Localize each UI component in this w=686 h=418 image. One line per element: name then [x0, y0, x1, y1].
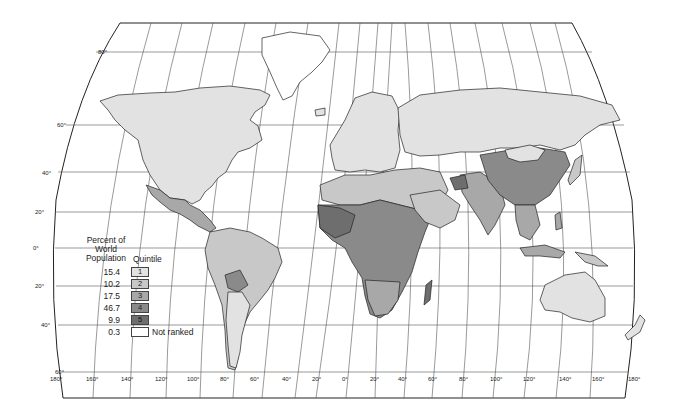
- svg-text:0°: 0°: [33, 245, 39, 251]
- legend-header-quintile: Quintile: [133, 254, 162, 264]
- legend-swatch-q1: 1: [131, 267, 149, 277]
- legend-percent: 0.3: [80, 327, 120, 337]
- svg-text:120°: 120°: [523, 376, 536, 382]
- legend-percent: 17.5: [80, 291, 120, 301]
- legend-row-1: 15.4 1: [80, 267, 230, 277]
- svg-text:160°: 160°: [86, 376, 99, 382]
- legend-header-line: Population: [80, 254, 132, 263]
- legend-swatch-q4: 4: [131, 303, 149, 313]
- svg-text:160°: 160°: [592, 376, 605, 382]
- legend-percent: 10.2: [80, 279, 120, 289]
- legend-row-3: 17.5 3: [80, 291, 230, 301]
- svg-text:80°: 80°: [98, 49, 108, 55]
- legend-swatch-not-ranked: [131, 327, 149, 337]
- svg-text:100°: 100°: [187, 376, 200, 382]
- svg-text:40°: 40°: [398, 376, 408, 382]
- legend-row-not-ranked: 0.3 Not ranked: [80, 327, 230, 337]
- svg-text:180°: 180°: [50, 376, 63, 382]
- svg-text:60°: 60°: [55, 369, 65, 375]
- legend-percent: 46.7: [80, 303, 120, 313]
- svg-text:120°: 120°: [155, 376, 168, 382]
- legend-swatch-q5: 5: [131, 315, 149, 325]
- svg-text:0°: 0°: [342, 376, 348, 382]
- legend-swatch-q3: 3: [131, 291, 149, 301]
- svg-text:180°: 180°: [628, 376, 641, 382]
- legend-row-4: 46.7 4: [80, 303, 230, 313]
- svg-text:20°: 20°: [35, 209, 45, 215]
- legend-swatch-q2: 2: [131, 279, 149, 289]
- legend-percent: 9.9: [80, 315, 120, 325]
- svg-text:20°: 20°: [35, 283, 45, 289]
- svg-text:40°: 40°: [42, 170, 52, 176]
- svg-text:40°: 40°: [41, 322, 51, 328]
- legend-row-5: 9.9 5: [80, 315, 230, 325]
- svg-text:80°: 80°: [220, 376, 230, 382]
- world-map: 80° 60° 40° 20° 0° 20° 40° 60° 180° 160°…: [0, 0, 686, 418]
- svg-text:60°: 60°: [250, 376, 260, 382]
- svg-text:60°: 60°: [428, 376, 438, 382]
- svg-text:20°: 20°: [370, 376, 380, 382]
- svg-text:140°: 140°: [121, 376, 134, 382]
- svg-text:80°: 80°: [459, 376, 469, 382]
- svg-text:60°: 60°: [57, 122, 67, 128]
- legend-not-ranked-label: Not ranked: [152, 327, 194, 337]
- legend-header-percent: Percent of World Population: [80, 236, 132, 263]
- legend-row-2: 10.2 2: [80, 279, 230, 289]
- svg-text:100°: 100°: [490, 376, 503, 382]
- svg-text:20°: 20°: [312, 376, 322, 382]
- svg-text:40°: 40°: [282, 376, 292, 382]
- legend-percent: 15.4: [80, 267, 120, 277]
- svg-text:140°: 140°: [559, 376, 572, 382]
